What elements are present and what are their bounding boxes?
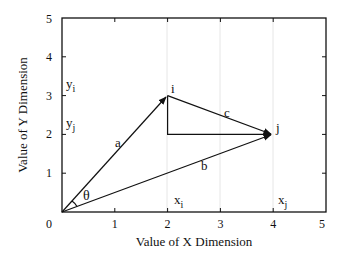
vector-diagram: 0 1 2 3 4 5 1 2 3 4 5 Value of X Dimensi… [0, 0, 344, 258]
x-tick-5: 5 [319, 217, 325, 231]
x-tick-0: 0 [46, 217, 52, 231]
y-tick-5: 5 [46, 12, 52, 26]
x-tick-2: 2 [165, 217, 171, 231]
vector-a [62, 97, 166, 212]
vector-c [168, 96, 271, 134]
y-tick-3: 3 [46, 89, 52, 103]
y-j-annotation: yj [66, 115, 75, 133]
x-tick-3: 3 [217, 217, 223, 231]
x-j-annotation: xj [278, 192, 287, 210]
y-i-annotation: yi [66, 76, 76, 94]
tick-marks [62, 18, 326, 212]
vector-c-label: c [224, 105, 230, 120]
y-tick-1: 1 [46, 166, 52, 180]
x-axis-label: Value of X Dimension [136, 234, 253, 249]
angle-arc [72, 201, 77, 207]
theta-label: θ [83, 188, 90, 203]
y-tick-2: 2 [46, 127, 52, 141]
x-i-annotation: xi [174, 192, 184, 210]
vector-b-label: b [201, 158, 208, 173]
y-tick-labels: 1 2 3 4 5 [46, 12, 52, 180]
x-tick-1: 1 [112, 217, 118, 231]
x-tick-labels: 0 1 2 3 4 5 [46, 217, 325, 231]
point-i-label: i [171, 81, 175, 96]
point-j-label: j [275, 120, 280, 135]
x-tick-4: 4 [270, 217, 276, 231]
diagram-labels: i j a b c θ yi yj xi xj [66, 76, 287, 210]
plot-frame [62, 18, 326, 212]
y-axis-label: Value of Y Dimension [15, 57, 30, 173]
vector-a-label: a [115, 135, 121, 150]
y-tick-4: 4 [46, 50, 52, 64]
